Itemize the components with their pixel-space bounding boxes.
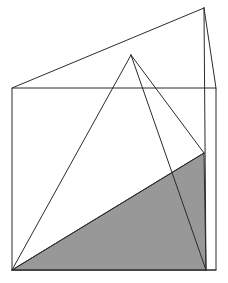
pyramid-mid-edge xyxy=(131,55,204,153)
shapes-layer xyxy=(12,88,216,270)
apex-to-rect-top-right xyxy=(204,8,216,88)
apex-to-rect-top-left xyxy=(12,8,204,88)
geometric-figure xyxy=(0,0,228,283)
figure-canvas xyxy=(0,0,228,283)
